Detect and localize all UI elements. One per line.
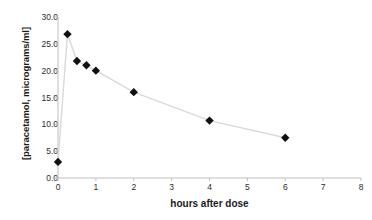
- data-series-markers: [54, 30, 290, 166]
- plot-area: [0, 0, 372, 220]
- paracetamol-concentration-chart: [paracetamol, micrograms/ml] 0.05.010.01…: [0, 0, 372, 220]
- data-point-marker: [73, 57, 81, 65]
- data-point-marker: [92, 66, 100, 74]
- data-point-marker: [130, 88, 138, 96]
- data-point-marker: [205, 116, 213, 124]
- axis-lines: [58, 17, 361, 178]
- data-point-marker: [281, 134, 289, 142]
- x-axis-title: hours after dose: [58, 198, 361, 209]
- data-point-marker: [63, 30, 71, 38]
- data-series-line: [58, 34, 285, 162]
- data-point-marker: [82, 61, 90, 69]
- data-point-marker: [54, 158, 62, 166]
